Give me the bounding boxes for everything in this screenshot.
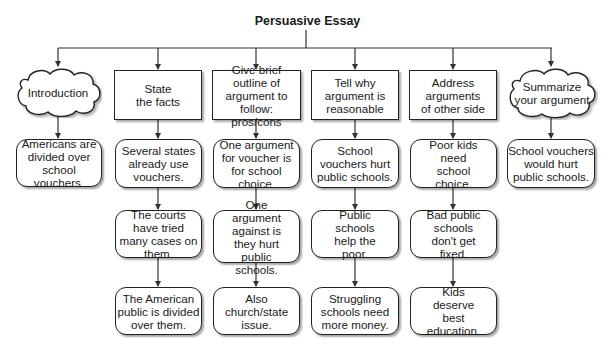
node-label: Public schools help the poor. (324, 208, 386, 260)
node-facts-item-2: The courts have tried many cases on them… (115, 210, 202, 258)
node-label: School vouchers hurt public schools. (316, 144, 394, 183)
node-outline-item-2: One argument against is they hurt public… (213, 210, 300, 263)
node-label: Several states already use vouchers. (120, 144, 198, 183)
node-address-item-1: Poor kids need school choice. (410, 139, 497, 188)
node-label: Poor kids need school choice. (424, 138, 484, 190)
node-label: State the facts (135, 82, 181, 108)
node-tell-item-3: Struggling schools need more money. (311, 287, 399, 335)
node-brief-outline: Give brief outline of argument to follow… (212, 70, 301, 120)
node-label: Address arguments of other side (420, 76, 486, 115)
node-introduction-label: Introduction (28, 86, 89, 99)
node-facts-item-3: The American public is divided over them… (115, 287, 202, 335)
node-label: One argument for voucher is for school c… (215, 138, 299, 190)
node-summarize: Summarize your argument (506, 66, 598, 120)
node-tell-item-1: School vouchers hurt public schools. (311, 139, 399, 188)
node-address-item-3: Kids deserve best education. (410, 287, 497, 335)
node-introduction: Introduction (14, 66, 102, 118)
node-summary-item-1: School vouchers would hurt public school… (507, 139, 595, 188)
node-label: School vouchers would hurt public school… (508, 144, 594, 183)
node-label: Tell why argument is reasonable (322, 76, 388, 115)
node-label: Give brief outline of argument to follow… (214, 63, 300, 128)
node-outline-item-3: Also church/state issue. (213, 287, 300, 335)
node-summarize-label: Summarize your argument (511, 80, 593, 106)
node-outline-item-1: One argument for voucher is for school c… (213, 139, 300, 188)
node-label: Kids deserve best education. (422, 285, 486, 337)
node-state-the-facts: State the facts (114, 70, 202, 120)
node-facts-item-1: Several states already use vouchers. (115, 139, 202, 188)
node-label: Americans are divided over school vouche… (18, 137, 100, 189)
node-label: Struggling schools need more money. (317, 292, 393, 331)
node-label: Also church/state issue. (222, 292, 292, 331)
node-address-item-2: Bad public schools don't get fixed. (410, 210, 497, 258)
node-tell-item-2: Public schools help the poor. (311, 210, 399, 258)
node-intro-item-1: Americans are divided over school vouche… (16, 139, 102, 187)
node-address-arguments: Address arguments of other side (409, 70, 497, 120)
node-label: One argument against is they hurt public… (220, 198, 294, 276)
node-label: Bad public schools don't get fixed. (422, 208, 486, 260)
node-tell-why: Tell why argument is reasonable (311, 70, 399, 120)
node-label: The courts have tried many cases on them… (119, 208, 199, 260)
node-label: The American public is divided over them… (118, 292, 200, 331)
